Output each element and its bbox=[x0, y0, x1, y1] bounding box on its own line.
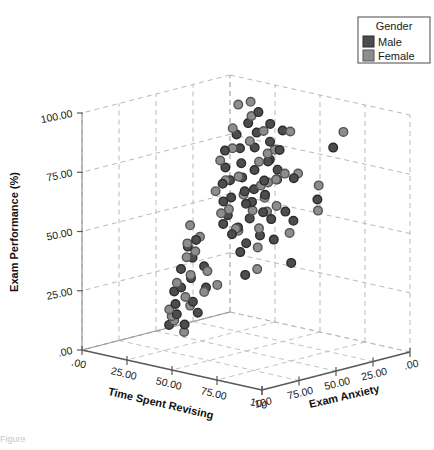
svg-text:Male: Male bbox=[378, 36, 402, 48]
svg-text:25.00: 25.00 bbox=[360, 365, 388, 383]
svg-text:.00: .00 bbox=[57, 344, 74, 359]
svg-text:100: 100 bbox=[253, 394, 273, 410]
svg-text:50.00: 50.00 bbox=[45, 226, 73, 243]
svg-text:75.00: 75.00 bbox=[45, 166, 73, 183]
svg-text:50.00: 50.00 bbox=[155, 374, 183, 392]
svg-text:Female: Female bbox=[378, 50, 415, 62]
svg-text:.00: .00 bbox=[70, 356, 87, 371]
svg-text:25.00: 25.00 bbox=[45, 285, 73, 302]
axis-lines bbox=[82, 113, 410, 390]
svg-text:Time Spent Revising: Time Spent Revising bbox=[107, 385, 215, 421]
svg-text:75.00: 75.00 bbox=[200, 384, 228, 402]
svg-text:100.00: 100.00 bbox=[40, 107, 74, 125]
svg-text:.00: .00 bbox=[403, 357, 420, 372]
svg-text:Exam Performance (%): Exam Performance (%) bbox=[8, 172, 20, 292]
svg-text:25.00: 25.00 bbox=[110, 364, 138, 382]
axis-labels: .0025.0050.0075.00100.00.0025.0050.0075.… bbox=[8, 107, 420, 421]
figure-container: .0025.0050.0075.00100.00.0025.0050.0075.… bbox=[0, 0, 434, 450]
scatter-3d-plot: .0025.0050.0075.00100.00.0025.0050.0075.… bbox=[0, 0, 434, 450]
svg-text:Gender: Gender bbox=[376, 20, 413, 32]
figure-caption: Figure bbox=[0, 434, 434, 450]
legend[interactable]: GenderMaleFemale bbox=[358, 17, 430, 63]
